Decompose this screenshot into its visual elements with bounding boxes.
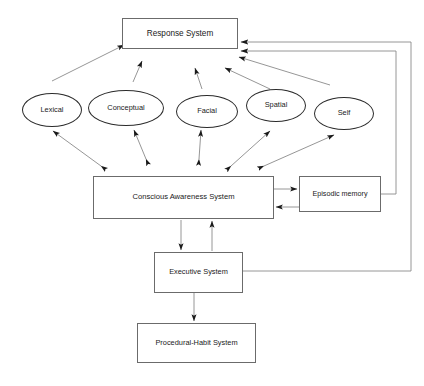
node-executive-system[interactable] [154,252,243,293]
node-conceptual[interactable] [88,90,164,126]
node-facial[interactable] [176,95,238,128]
node-lexical[interactable] [22,93,82,127]
edge-cas-facial [199,130,201,159]
edge-cas-spatial [231,131,270,166]
node-self[interactable] [314,97,374,130]
edge-cas-conceptual [134,130,146,159]
edge-conceptual-to-response [133,61,142,82]
edge-executive-to-response [241,42,411,271]
node-conscious-awareness-system[interactable] [93,176,274,219]
node-spatial[interactable] [246,89,306,122]
edge-spatial-to-response [225,68,270,89]
edge-lexical-to-response [52,45,124,81]
edge-facial-to-response [195,68,202,89]
edge-cas-self [264,135,334,166]
diagram-canvas: Response System Lexical Conceptual Facia… [0,0,424,386]
node-response-system[interactable] [122,18,238,49]
node-episodic-memory[interactable] [299,176,381,212]
edge-cas-lexical [53,131,101,166]
node-procedural-habit-system[interactable] [137,323,256,363]
